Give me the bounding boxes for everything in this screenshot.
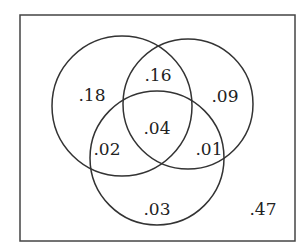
circle-set-A xyxy=(52,36,192,176)
region-label-outside: .47 xyxy=(249,199,276,219)
region-label-only-C: .03 xyxy=(143,199,170,219)
region-label-A-B-C: .04 xyxy=(143,118,170,138)
region-label-B-and-C-only: .01 xyxy=(195,139,222,159)
region-label-only-B: .09 xyxy=(211,86,238,106)
region-label-A-and-C-only: .02 xyxy=(93,139,120,159)
region-label-only-A: .18 xyxy=(78,85,105,105)
venn-diagram: .18.16.09.04.02.01.03.47 xyxy=(0,0,301,251)
region-label-A-and-B-only: .16 xyxy=(144,65,171,85)
